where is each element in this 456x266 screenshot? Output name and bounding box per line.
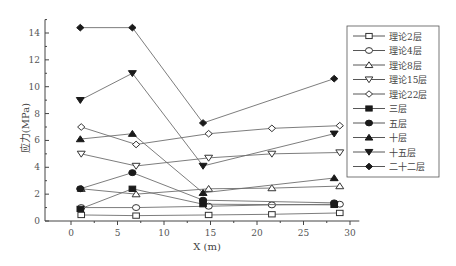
square-marker-icon (78, 212, 85, 217)
series-line (78, 210, 343, 218)
triangle-down-marker-icon (199, 163, 207, 169)
series-line (76, 71, 338, 170)
y-tick-label: 8 (34, 109, 40, 119)
circle-marker-icon (365, 120, 372, 126)
triangle-down-marker-icon (76, 98, 84, 104)
legend: 理论2层理论4层理论8层理论15层理论22层三层五层十层十五层二十二层 (347, 26, 439, 177)
diamond-marker-icon (78, 124, 85, 131)
triangle-down-marker-icon (128, 71, 136, 77)
y-tick-label: 12 (29, 55, 40, 65)
data-line (80, 28, 334, 123)
y-axis-title: 应力(MPa) (19, 103, 31, 153)
triangle-down-marker-icon (132, 163, 140, 169)
x-tick-label: 5 (115, 228, 121, 238)
legend-label: 三层 (389, 104, 407, 114)
square-marker-icon (366, 106, 372, 111)
legend-label: 理论15层 (389, 74, 427, 85)
x-tick-label: 10 (158, 228, 170, 238)
triangle-up-marker-icon (330, 175, 338, 181)
x-tick-label: 0 (68, 228, 74, 238)
x-axis-title: X (m) (193, 241, 221, 252)
square-marker-icon (133, 213, 140, 218)
x-tick-label: 20 (251, 228, 263, 238)
diamond-marker-icon (129, 24, 136, 31)
square-marker-icon (366, 33, 372, 38)
legend-label: 理论22层 (389, 89, 427, 100)
triangle-up-marker-icon (128, 130, 136, 136)
legend-label: 十层 (389, 132, 407, 143)
legend-label: 理论4层 (389, 45, 422, 56)
legend-label: 五层 (389, 119, 407, 129)
square-marker-icon (269, 212, 276, 217)
y-tick-label: 10 (29, 82, 41, 92)
stress-line-chart: 05101520253002468101214 应力(MPa) X (m) 理论… (0, 0, 456, 266)
square-marker-icon (77, 206, 84, 211)
circle-marker-icon (129, 170, 136, 176)
legend-label: 二十二层 (389, 161, 425, 172)
circle-marker-icon (132, 205, 139, 211)
diamond-marker-icon (331, 75, 338, 82)
circle-marker-icon (199, 197, 206, 203)
legend-label: 理论8层 (389, 60, 422, 71)
y-tick-label: 2 (34, 189, 40, 199)
diamond-marker-icon (268, 125, 275, 132)
square-marker-icon (336, 210, 343, 215)
diamond-marker-icon (199, 120, 206, 127)
series-group (76, 24, 343, 218)
y-tick-label: 14 (29, 28, 41, 38)
circle-marker-icon (77, 186, 84, 192)
square-marker-icon (205, 212, 212, 217)
diamond-marker-icon (77, 24, 84, 31)
legend-label: 理论2层 (389, 31, 422, 42)
legend-label: 十五层 (389, 147, 416, 158)
y-tick-label: 6 (34, 135, 40, 145)
x-tick-label: 25 (298, 228, 310, 238)
circle-marker-icon (331, 200, 338, 206)
data-line (80, 73, 334, 166)
diamond-marker-icon (205, 130, 212, 137)
diamond-marker-icon (336, 122, 343, 129)
x-tick-label: 15 (205, 228, 217, 238)
y-tick-label: 4 (34, 162, 40, 172)
series-line (77, 150, 343, 169)
x-tick-label: 30 (344, 228, 356, 238)
square-marker-icon (129, 186, 136, 191)
series-line (77, 24, 338, 126)
circle-marker-icon (365, 48, 372, 54)
y-tick-label: 0 (34, 216, 40, 226)
diamond-marker-icon (132, 141, 139, 148)
